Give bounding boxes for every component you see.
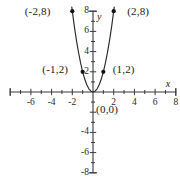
x-axis-label: x: [166, 79, 170, 89]
point-coordinate-label: (2,8): [127, 6, 149, 17]
x-tick-label: 8: [173, 98, 178, 108]
y-tick-label: -8: [75, 168, 89, 177]
y-tick-label: 4: [75, 47, 89, 57]
point-coordinate-label: (1,2): [113, 64, 135, 75]
point-coordinate-label: (-1,2): [42, 64, 68, 75]
point-coordinate-label: (0,0): [96, 104, 118, 115]
data-point-marker: [70, 9, 74, 13]
x-tick-label: 4: [132, 98, 137, 108]
point-coordinate-label: (-2,8): [25, 6, 51, 17]
x-tick-label: -4: [48, 98, 56, 108]
y-axis-label: y: [97, 12, 101, 22]
y-tick-label: 6: [75, 27, 89, 37]
x-tick-label: -2: [68, 98, 76, 108]
y-tick-label: 8: [75, 6, 89, 16]
graph-canvas: [0, 0, 180, 177]
y-tick-label: -6: [75, 148, 89, 158]
y-tick-label: -4: [75, 128, 89, 138]
data-point-marker: [112, 9, 116, 13]
data-point-marker: [101, 70, 105, 74]
x-tick-label: -6: [27, 98, 35, 108]
y-tick-label: 2: [75, 67, 89, 77]
coordinate-plane-figure: -6-4-22468-8-6-42468(-2,8)(2,8)(-1,2)(1,…: [0, 0, 180, 177]
x-tick-label: 6: [153, 98, 158, 108]
